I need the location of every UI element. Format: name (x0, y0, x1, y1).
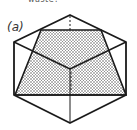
cube-diagram (0, 0, 137, 130)
